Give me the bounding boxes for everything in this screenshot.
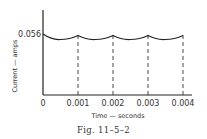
figure-caption: Fig. 11–5–2: [0, 125, 207, 135]
y-tick-label: 0.056: [18, 30, 41, 39]
dashed-period-lines: [78, 35, 183, 95]
x-tick-label: 0.004: [172, 99, 195, 108]
y-axis-label: Current — amps: [11, 39, 19, 92]
x-axis-label: Time — seconds: [90, 112, 145, 120]
x-tick-label: 0: [40, 99, 45, 108]
x-tick-label: 0.001: [67, 99, 90, 108]
x-tick-label: 0.002: [102, 99, 125, 108]
x-tick-label: 0.003: [137, 99, 160, 108]
chart-figure: 0.056 0 0.001 0.002 0.003 0.004 Time — s…: [0, 0, 207, 139]
